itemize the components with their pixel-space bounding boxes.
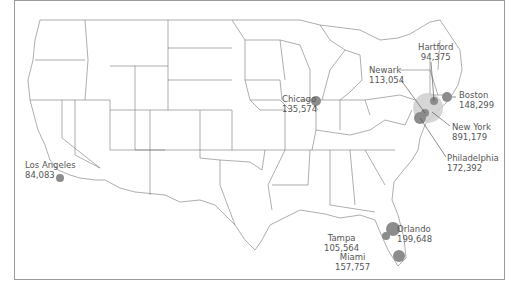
bubble-boston[interactable]: [442, 92, 452, 102]
label-hartford: Hartford94,375: [418, 42, 453, 62]
label-chicago: Chicago135,574: [282, 94, 317, 114]
label-boston: Boston148,299: [459, 90, 494, 110]
label-newark: Newark113,054: [369, 65, 404, 85]
label-tampa: Tampa105,564: [324, 233, 359, 253]
bubble-miami[interactable]: [393, 250, 405, 262]
label-philadelphia: Philadelphia172,392: [447, 153, 499, 173]
label-miami: Miami157,757: [335, 252, 370, 272]
label-los-angeles: Los Angeles84,083: [25, 160, 76, 180]
label-orlando: Orlando199,648: [397, 224, 432, 244]
label-new-york: New York891,179: [452, 122, 491, 142]
city-bubbles: [56, 92, 452, 262]
bubble-tampa[interactable]: [382, 232, 390, 240]
